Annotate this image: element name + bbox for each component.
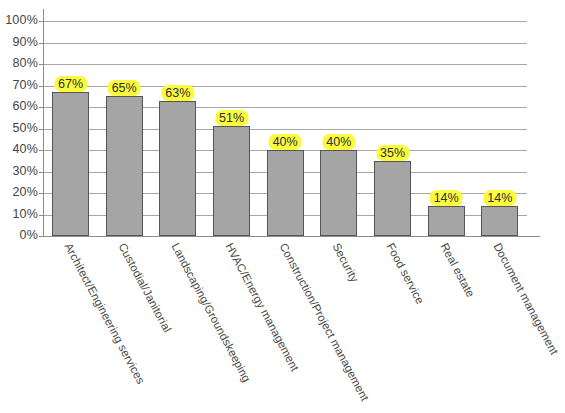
x-axis-category-label: Real estate [438, 241, 476, 299]
x-axis-category-label: Document management [492, 241, 561, 357]
plot-area: 67%65%63%51%40%40%35%14%14% [44, 21, 527, 236]
bar-value-label: 40% [269, 134, 302, 150]
bar-slot: 63% [151, 21, 205, 236]
y-axis-tick-label: 60% [0, 99, 38, 113]
y-axis-line [43, 9, 44, 237]
bar[interactable]: 51% [213, 126, 250, 236]
bar-chart: 67%65%63%51%40%40%35%14%14% 0%10%20%30%4… [0, 0, 565, 413]
bar-slot: 65% [98, 21, 152, 236]
bar[interactable]: 40% [320, 150, 357, 236]
bar[interactable]: 63% [159, 101, 196, 236]
bar-value-label: 51% [215, 110, 248, 126]
bar-value-label: 65% [108, 80, 141, 96]
bar[interactable]: 14% [428, 206, 465, 236]
bar-value-label: 67% [54, 76, 87, 92]
bar[interactable]: 67% [52, 92, 89, 236]
bar-value-label: 63% [161, 85, 194, 101]
bar-slot: 40% [312, 21, 366, 236]
bar-value-label: 40% [322, 134, 355, 150]
bar-slot: 67% [44, 21, 98, 236]
bar[interactable]: 65% [106, 96, 143, 236]
y-axis-tick-label: 0% [0, 228, 38, 242]
x-axis-category-label: Custodial/Janitorial [116, 241, 173, 334]
y-axis-tick-label: 50% [0, 121, 38, 135]
x-axis-category-label: Security [331, 241, 361, 284]
bar-value-label: 14% [430, 190, 463, 206]
bar-value-label: 35% [376, 145, 409, 161]
bar-value-label: 14% [483, 190, 516, 206]
x-axis-line [43, 236, 540, 237]
y-axis-tick-label: 100% [0, 13, 38, 27]
y-axis-tick-label: 90% [0, 35, 38, 49]
y-axis-tick-label: 10% [0, 207, 38, 221]
y-axis-tick-label: 80% [0, 56, 38, 70]
y-axis-tick-label: 70% [0, 78, 38, 92]
y-axis-tick-label: 20% [0, 185, 38, 199]
bar-slot: 40% [259, 21, 313, 236]
bar[interactable]: 35% [374, 161, 411, 236]
bar-slot: 14% [473, 21, 527, 236]
x-axis-category-label: Construction/Project management [277, 241, 371, 403]
x-axis-category-label: Food service [384, 241, 426, 306]
bar-slot: 14% [420, 21, 474, 236]
bar[interactable]: 14% [481, 206, 518, 236]
bar-slot: 51% [205, 21, 259, 236]
bar[interactable]: 40% [267, 150, 304, 236]
y-axis-tick-label: 40% [0, 142, 38, 156]
y-axis-tick-label: 30% [0, 164, 38, 178]
bar-slot: 35% [366, 21, 420, 236]
